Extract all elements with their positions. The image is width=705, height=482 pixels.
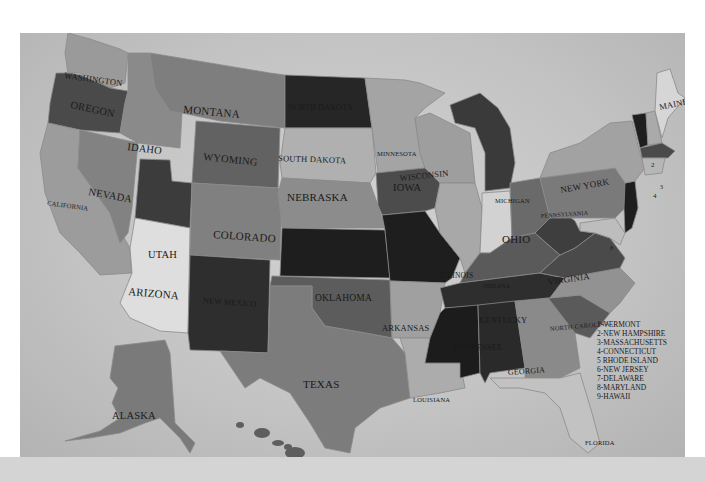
legend-item: 2-NEW HAMPSHIRE xyxy=(597,329,667,338)
label-illinois: ILLINOIS xyxy=(440,271,473,280)
map-svg: WASHINGTON OREGON CALIFORNIA NEVADA IDAH… xyxy=(20,33,685,457)
state-new-jersey xyxy=(624,181,638,233)
marker-md: 8 xyxy=(610,245,613,251)
legend-item: 4-CONNECTICUT xyxy=(597,347,667,356)
state-florida xyxy=(490,373,600,453)
label-minnesota: MINNESOTA xyxy=(377,150,417,157)
legend-item: 7-DELAWARE xyxy=(597,374,667,383)
label-iowa: IOWA xyxy=(393,182,421,193)
legend-item: 5 RHODE ISLAND xyxy=(597,356,667,365)
label-michigan: MICHIGAN xyxy=(495,197,530,204)
states-layer xyxy=(40,33,685,457)
marker-ct: 4 xyxy=(653,192,657,200)
bottom-band xyxy=(0,457,705,482)
legend-item: 8-MARYLAND xyxy=(597,383,667,392)
label-arkansas: ARKANSAS xyxy=(382,323,429,333)
marker-ma: 3 xyxy=(660,184,663,190)
marker-nh: 2 xyxy=(651,161,655,169)
state-nebraska xyxy=(278,178,385,228)
legend-item: 9-HAWAII xyxy=(597,392,667,401)
label-kentucky: KENTUCKY xyxy=(479,315,527,325)
label-ohio: OHIO xyxy=(502,233,530,245)
state-alaska xyxy=(65,340,195,453)
label-utah: UTAH xyxy=(148,249,177,260)
state-utah xyxy=(135,159,192,228)
label-louisiana: LOUISIANA xyxy=(413,396,450,403)
state-kansas xyxy=(280,228,390,278)
label-alaska: ALASKA xyxy=(112,410,156,421)
label-oklahoma: OKLAHOMA xyxy=(315,293,372,303)
label-nebraska: NEBRASKA xyxy=(287,191,348,203)
us-map: WASHINGTON OREGON CALIFORNIA NEVADA IDAH… xyxy=(20,33,685,457)
legend-item: 6-NEW JERSEY xyxy=(597,365,667,374)
state-arizona xyxy=(120,218,190,333)
state-colorado xyxy=(190,183,282,260)
label-north-dakota: NORTH DAKOTA xyxy=(288,103,353,112)
label-indiana: INDIANA xyxy=(483,283,511,289)
legend-item: 3-MASSACHUSETTS xyxy=(597,338,667,347)
state-hawaii xyxy=(236,422,305,457)
label-tennessee: TENNESSEE xyxy=(453,342,503,352)
label-texas: TEXAS xyxy=(303,378,339,390)
legend-item: 1-VERMONT xyxy=(597,320,667,329)
label-florida: FLORIDA xyxy=(585,439,615,446)
state-number-legend: 1-VERMONT 2-NEW HAMPSHIRE 3-MASSACHUSETT… xyxy=(597,320,667,401)
state-north-dakota xyxy=(285,75,372,128)
